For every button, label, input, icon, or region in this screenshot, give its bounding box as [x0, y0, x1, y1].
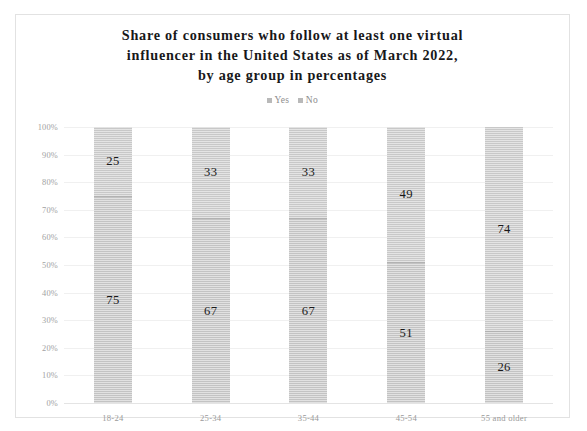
bar-slot: 4951	[357, 127, 455, 403]
legend-label-yes: Yes	[275, 95, 290, 105]
bar-slot: 2575	[64, 127, 162, 403]
x-axis-tick-label: 35-44	[298, 413, 319, 423]
bar-slot: 3367	[260, 127, 358, 403]
bar-value-label-yes: 67	[302, 304, 315, 319]
x-axis-tick-label: 18-24	[102, 413, 123, 423]
y-axis-tick-label: 20%	[42, 343, 58, 352]
bar-stack[interactable]: 2575	[94, 127, 132, 403]
bar-segment-no[interactable]: 33	[289, 127, 327, 218]
bar-segment-no[interactable]: 33	[192, 127, 230, 218]
y-axis-tick-label: 60%	[42, 233, 58, 242]
y-axis-tick-label: 40%	[42, 288, 58, 297]
y-axis-tick-label: 80%	[42, 178, 58, 187]
bar-segment-no[interactable]: 49	[387, 127, 425, 262]
gridline	[64, 403, 553, 404]
x-axis-tick-slot: 25-34	[162, 407, 260, 425]
bar-stack[interactable]: 7426	[485, 127, 523, 403]
chart-title-line-2: influencer in the United States as of Ma…	[16, 45, 569, 65]
bar-segment-yes[interactable]: 67	[289, 218, 327, 403]
y-axis-tick-label: 50%	[42, 261, 58, 270]
legend-label-no: No	[306, 95, 318, 105]
chart-legend: Yes No	[16, 95, 569, 105]
bar-segment-yes[interactable]: 67	[192, 218, 230, 403]
y-axis-tick-label: 100%	[38, 123, 58, 132]
y-axis-tick-label: 10%	[42, 371, 58, 380]
bar-value-label-no: 74	[497, 222, 510, 237]
chart-title-line-1: Share of consumers who follow at least o…	[16, 25, 569, 45]
x-axis: 18-2425-3435-4445-5455 and older	[64, 407, 553, 425]
plot-area: 100%90%80%70%60%50%40%30%20%10%0% 257533…	[64, 127, 553, 403]
y-axis-tick-label: 70%	[42, 205, 58, 214]
y-axis-tick-label: 30%	[42, 316, 58, 325]
bar-stack[interactable]: 3367	[192, 127, 230, 403]
bar-value-label-yes: 51	[400, 326, 413, 341]
x-axis-tick-label: 25-34	[200, 413, 221, 423]
bar-group: 25753367336749517426	[64, 127, 553, 403]
bar-segment-yes[interactable]: 51	[387, 262, 425, 403]
x-axis-tick-slot: 35-44	[260, 407, 358, 425]
bar-segment-yes[interactable]: 26	[485, 331, 523, 403]
x-axis-tick-slot: 55 and older	[455, 407, 553, 425]
legend-swatch-no-icon	[298, 98, 303, 103]
bar-slot: 3367	[162, 127, 260, 403]
bar-value-label-yes: 75	[106, 293, 119, 308]
chart-title: Share of consumers who follow at least o…	[16, 25, 569, 85]
x-axis-tick-label: 55 and older	[481, 413, 527, 423]
bar-value-label-no: 33	[204, 165, 217, 180]
chart-title-line-3: by age group in percentages	[16, 65, 569, 85]
legend-item-yes[interactable]: Yes	[267, 95, 289, 105]
bar-segment-no[interactable]: 74	[485, 127, 523, 331]
bar-value-label-yes: 67	[204, 304, 217, 319]
bar-stack[interactable]: 3367	[289, 127, 327, 403]
bar-value-label-yes: 26	[497, 360, 510, 375]
legend-swatch-yes-icon	[267, 98, 272, 103]
x-axis-tick-label: 45-54	[396, 413, 417, 423]
y-axis-tick-label: 90%	[42, 150, 58, 159]
bar-segment-yes[interactable]: 75	[94, 196, 132, 403]
x-axis-tick-slot: 18-24	[64, 407, 162, 425]
y-axis-tick-label: 0%	[46, 399, 58, 408]
bar-slot: 7426	[455, 127, 553, 403]
bar-value-label-no: 49	[400, 187, 413, 202]
bar-stack[interactable]: 4951	[387, 127, 425, 403]
bar-segment-no[interactable]: 25	[94, 127, 132, 196]
chart-figure: Share of consumers who follow at least o…	[15, 14, 570, 418]
x-axis-tick-slot: 45-54	[357, 407, 455, 425]
bar-value-label-no: 33	[302, 165, 315, 180]
bar-value-label-no: 25	[106, 154, 119, 169]
legend-item-no[interactable]: No	[298, 95, 318, 105]
